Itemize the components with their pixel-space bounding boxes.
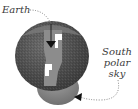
diagram-canvas: Earth South polar sky <box>0 0 138 109</box>
south-polar-sky-line1: South <box>100 46 134 57</box>
earth-leader-line <box>30 10 50 22</box>
south-sky-leader-line <box>80 80 119 100</box>
south-polar-sky-line2: polar <box>100 57 134 68</box>
earth-label: Earth <box>2 4 31 15</box>
south-polar-sky-line3: sky <box>100 68 134 79</box>
south-polar-sky-label: South polar sky <box>100 46 134 79</box>
